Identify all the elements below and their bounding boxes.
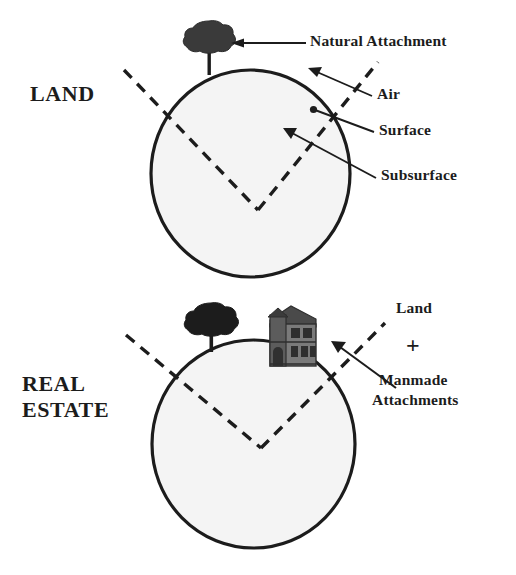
house-window (301, 346, 308, 357)
label-attachments: Attachments (372, 391, 459, 408)
label-plus: + (406, 332, 420, 359)
real-estate-sphere-group (126, 323, 385, 548)
air-leader (308, 67, 372, 96)
house-door (273, 347, 283, 366)
label-manmade: Manmade (379, 371, 448, 388)
land-sphere-group (124, 62, 378, 277)
house-window (291, 328, 300, 338)
natural-attachment-leader (231, 39, 306, 48)
tree-foliage (184, 303, 238, 337)
figure-canvas: LAND Natural Attachment Air Surface Subs… (0, 0, 516, 575)
real-estate-sphere (152, 340, 355, 548)
tree-foliage (183, 21, 235, 54)
house-icon (268, 306, 316, 366)
page-title-real: REAL (22, 372, 86, 397)
label-land: Land (396, 299, 432, 316)
label-air: Air (377, 85, 400, 102)
tree-icon (183, 21, 235, 75)
house-window (310, 346, 316, 357)
page-title-estate: ESTATE (22, 398, 109, 423)
land-sphere (151, 70, 350, 277)
label-natural-attachment: Natural Attachment (310, 32, 447, 49)
label-subsurface: Subsurface (381, 166, 457, 183)
house-window (291, 346, 298, 357)
page-title-land: LAND (30, 82, 95, 107)
label-surface: Surface (379, 121, 431, 138)
house-window (303, 328, 312, 338)
